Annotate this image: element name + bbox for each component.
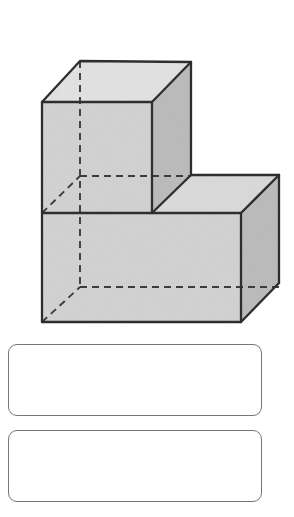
answer-box-2[interactable] [8, 430, 262, 502]
answer-box-1-text [9, 345, 261, 357]
figure-area [0, 0, 294, 338]
answer-area [0, 338, 294, 517]
answer-box-2-text [9, 431, 261, 443]
face-lower-front [42, 213, 241, 322]
answer-box-1[interactable] [8, 344, 262, 416]
face-upper-front [42, 102, 152, 213]
page-root [0, 0, 294, 517]
figure-faces-group [42, 61, 279, 322]
solid-figure-diagram [0, 0, 294, 338]
